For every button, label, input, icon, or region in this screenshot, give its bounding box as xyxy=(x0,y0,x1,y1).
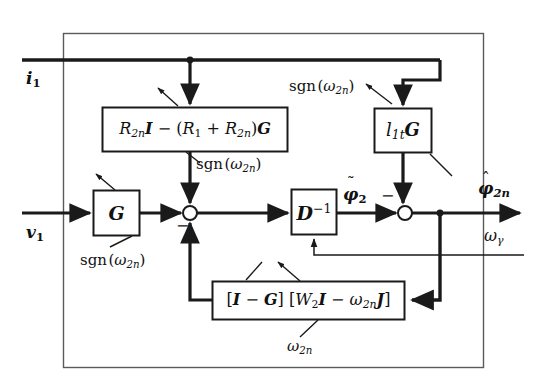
d-inverse-block-label: D−1 xyxy=(291,189,337,235)
wire-output-to-feedback-block xyxy=(412,213,440,300)
omega-gamma-label: ωγ xyxy=(484,228,504,247)
leader-arrow-into-g-block xyxy=(96,174,115,190)
leader-l1t-block-callout xyxy=(430,154,452,176)
figure-root: R2nI − (R1 + R2n)G l1tG G D−1 [I − G] [W… xyxy=(0,0,540,391)
sgn-label-g-block: sgn (ω2n) xyxy=(80,253,145,270)
node-current-branch xyxy=(187,57,194,64)
omega-2n-label-feedback: ω2n xyxy=(287,339,312,356)
output-flux-label: ˆφ2n xyxy=(478,180,510,200)
feedback-block-formula: [I − G] [W2I − ω2nJ] xyxy=(227,290,391,311)
g-block-formula: G xyxy=(108,202,124,224)
wire-i1-to-l1t-block xyxy=(403,60,440,105)
diagram-canvas xyxy=(0,0,540,391)
l1t-g-block-formula: l1tG xyxy=(386,119,420,142)
leader-feedback-block-to-omega-label xyxy=(300,320,318,337)
sgn-label-l1t-block: sgn (ω2n) xyxy=(289,79,354,96)
l1t-g-block-label: l1tG xyxy=(374,108,432,153)
feedback-block-label: [I − G] [W2I − ω2nJ] xyxy=(212,281,405,320)
wire-feedback-block-to-sum1 xyxy=(190,223,212,300)
leader-d-inverse-callout xyxy=(246,262,262,280)
minus-sign-junction-left: − xyxy=(176,218,189,234)
summing-junction-right[interactable] xyxy=(398,206,412,220)
resistance-block-formula: R2nI − (R1 + R2n)G xyxy=(119,119,271,140)
leader-arrow-into-feedback-block xyxy=(278,262,300,281)
sgn-label-resistance-block: sgn (ω2n) xyxy=(196,157,261,174)
leader-sgn-to-l1t-block xyxy=(366,84,392,104)
leader-sgn-to-resistance-block xyxy=(158,88,178,106)
minus-sign-junction-right: − xyxy=(381,188,394,204)
input-current-label: ^i1 xyxy=(26,70,41,90)
resistance-block-label: R2nI − (R1 + R2n)G xyxy=(102,107,288,152)
intermediate-flux-label: ˜φ2 xyxy=(343,186,366,206)
leader-sgn-to-g-block xyxy=(110,236,132,247)
g-block-label: G xyxy=(93,190,140,236)
d-inverse-block-formula: D−1 xyxy=(297,201,332,224)
input-voltage-label: v1 xyxy=(26,224,44,244)
